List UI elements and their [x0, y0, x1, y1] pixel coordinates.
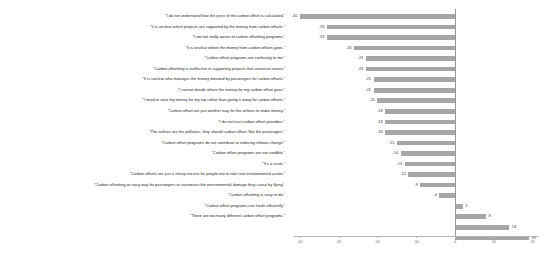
bar-category-label: “Carbon offset programs use funds effici… [0, 201, 285, 212]
bar-value-label: -15 [384, 138, 394, 149]
bar-category-label: “I am not really aware of carbon offsett… [0, 32, 285, 43]
bar-category-label: “Carbon offsetting an easy way for passe… [0, 180, 285, 191]
bar-row: “Carbon offset programs are confusing to… [0, 53, 531, 64]
bar-value-label: -12 [396, 169, 406, 180]
bar-value-label: -40 [287, 11, 297, 22]
bar-value-label: -20 [365, 95, 375, 106]
bar [377, 98, 455, 103]
bar-category-label: “The airlines are the polluters, they sh… [0, 127, 285, 138]
x-axis-tick-label: -20 [375, 239, 381, 245]
bar-row: “It's a scam.”-13 [0, 159, 531, 170]
bar-row: “Carbon offsetting is ineffective in sup… [0, 64, 531, 75]
bar [401, 151, 455, 156]
bar-value-label: -18 [373, 106, 383, 117]
bar-value-label: -21 [361, 74, 371, 85]
bar [439, 193, 455, 198]
bar-category-label: “Carbon offset programs are confusing to… [0, 53, 285, 64]
x-axis-tick [416, 236, 417, 238]
bar-row: “Carbon offsets are just a cheap excuse … [0, 169, 531, 180]
bar-row: “Carbon offset programs are not credible… [0, 148, 531, 159]
bar-value-label: 2 [465, 201, 467, 212]
bar-value-label: -26 [342, 43, 352, 54]
bar-category-label: “There are too many different carbon off… [0, 211, 285, 222]
bar-value-label: -33 [314, 32, 324, 43]
bar [455, 204, 463, 209]
bar [354, 46, 455, 51]
bar-row: “It is unclear which projects are suppor… [0, 22, 531, 33]
bar-category-label: “Carbon offsetting is ineffective in sup… [0, 64, 285, 75]
bar-row: “Carbon offsetting is easy to do.”-4 [0, 190, 531, 201]
x-axis-tick [494, 236, 495, 238]
bar-category-label: “It's a scam.” [0, 159, 285, 170]
bar-value-label: -14 [388, 148, 398, 159]
x-axis-tick-label: -30 [336, 239, 342, 245]
bar [374, 88, 455, 93]
x-axis-tick-label: -40 [297, 239, 303, 245]
bar-row: “Carbon offsetting an easy way for passe… [0, 180, 531, 191]
bar-row: “Carbon offset programs use funds effici… [0, 201, 531, 212]
bar-value-label: -9 [408, 180, 418, 191]
bar [300, 14, 455, 19]
x-axis-tick-label: 10 [492, 239, 496, 245]
bar-category-label: “Carbon offsets are just a cheap excuse … [0, 169, 285, 180]
bar-row: “I cannot decide where the money for my … [0, 85, 531, 96]
bar-row: “The airlines are the polluters, they sh… [0, 127, 531, 138]
bar-row: “Carbon offset are just another way for … [0, 106, 531, 117]
bar-value-label: -13 [392, 159, 402, 170]
bar-row: “It is unclear where the money from carb… [0, 43, 531, 54]
bar-value-label: -23 [353, 64, 363, 75]
bar-category-label: “I do not trust carbon offset providers.… [0, 117, 285, 128]
bar [385, 109, 455, 114]
bar-category-label: “Carbon offset are just another way for … [0, 106, 285, 117]
x-axis-tick-label: 20 [530, 239, 534, 245]
bar-row: 14 [0, 222, 531, 233]
bar [455, 214, 486, 219]
x-axis-tick [300, 236, 301, 238]
x-axis-tick [339, 236, 340, 238]
bar [397, 141, 455, 146]
bar-row: “I am not really aware of carbon offsett… [0, 32, 531, 43]
bar-value-label: -23 [353, 53, 363, 64]
bar-row: “I need to save my money for my trip rat… [0, 95, 531, 106]
bar-row: “There are too many different carbon off… [0, 211, 531, 222]
bar-category-label: “It is unclear which projects are suppor… [0, 22, 285, 33]
x-axis-tick [533, 236, 534, 238]
x-axis-tick [455, 236, 456, 238]
bar-value-label: -18 [373, 127, 383, 138]
bar-row: “It is unclear who manages the money don… [0, 74, 531, 85]
bar-category-label: “Carbon offset programs are not credible… [0, 148, 285, 159]
bar [385, 130, 455, 135]
bar [408, 172, 455, 177]
x-axis-tick-label: -10 [413, 239, 419, 245]
bar [374, 77, 455, 82]
bar [420, 183, 455, 188]
bar-category-label: “I cannot decide where the money for my … [0, 85, 285, 96]
zero-baseline [455, 9, 456, 236]
bar-value-label: 14 [512, 222, 516, 233]
bar [366, 67, 455, 72]
bar-value-label: -33 [314, 22, 324, 33]
bar [455, 225, 509, 230]
bar-category-label: “Carbon offsetting is easy to do.” [0, 190, 285, 201]
bar-category-label: “I do not understand how the price of th… [0, 11, 285, 22]
bar-row: “Carbon offset programs do not contribut… [0, 138, 531, 149]
bar-category-label: “It is unclear where the money from carb… [0, 43, 285, 54]
x-axis-tick-label: 0 [454, 239, 456, 245]
bar [385, 120, 455, 125]
bar [366, 56, 455, 61]
bar [327, 35, 455, 40]
bar-value-label: -4 [427, 190, 437, 201]
bar-row: “I do not understand how the price of th… [0, 11, 531, 22]
bar [405, 162, 455, 167]
bar-value-label: -18 [373, 117, 383, 128]
bar [327, 25, 455, 30]
bar-value-label: 8 [489, 211, 491, 222]
bar-category-label: “It is unclear who manages the money don… [0, 74, 285, 85]
x-axis-tick [377, 236, 378, 238]
bar-value-label: -21 [361, 85, 371, 96]
bar-category-label: “Carbon offset programs do not contribut… [0, 138, 285, 149]
bar-row: 19 [0, 233, 531, 244]
bar-category-label: “I need to save my money for my trip rat… [0, 95, 285, 106]
